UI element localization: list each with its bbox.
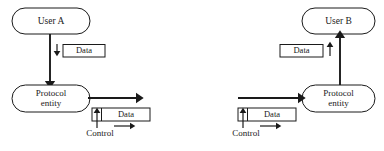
right-protocol-entity-label-line1: Protocol [323, 88, 354, 98]
left-protocol-entity-label-line2: entity [41, 98, 62, 108]
left-protocol-entity-node: Protocol entity [12, 85, 90, 112]
right-user-node-label: User B [325, 16, 352, 26]
left-user-node: User A [12, 8, 90, 34]
diagram-canvas: User A Data Protocol entity Data Control [0, 0, 384, 151]
left-user-node-label: User A [38, 16, 65, 26]
left-pdu-data-label: Data [118, 109, 134, 119]
right-protocol-entity-label-line2: entity [328, 98, 349, 108]
protocol-exchange-diagram: User A Data Protocol entity Data Control [0, 0, 384, 151]
left-protocol-entity-label-line1: Protocol [36, 88, 67, 98]
left-pdu-box: Data [92, 108, 150, 121]
left-data-box-label: Data [76, 45, 92, 55]
left-control-label: Control [86, 128, 114, 138]
right-data-box: Data [280, 45, 323, 58]
right-pdu-data-label: Data [264, 109, 280, 119]
right-control-label: Control [232, 128, 260, 138]
right-user-node: User B [302, 8, 375, 34]
right-data-box-label: Data [293, 45, 309, 55]
left-data-box: Data [63, 45, 105, 58]
right-pdu-box: Data [238, 108, 296, 121]
right-protocol-entity-node: Protocol entity [302, 85, 375, 112]
